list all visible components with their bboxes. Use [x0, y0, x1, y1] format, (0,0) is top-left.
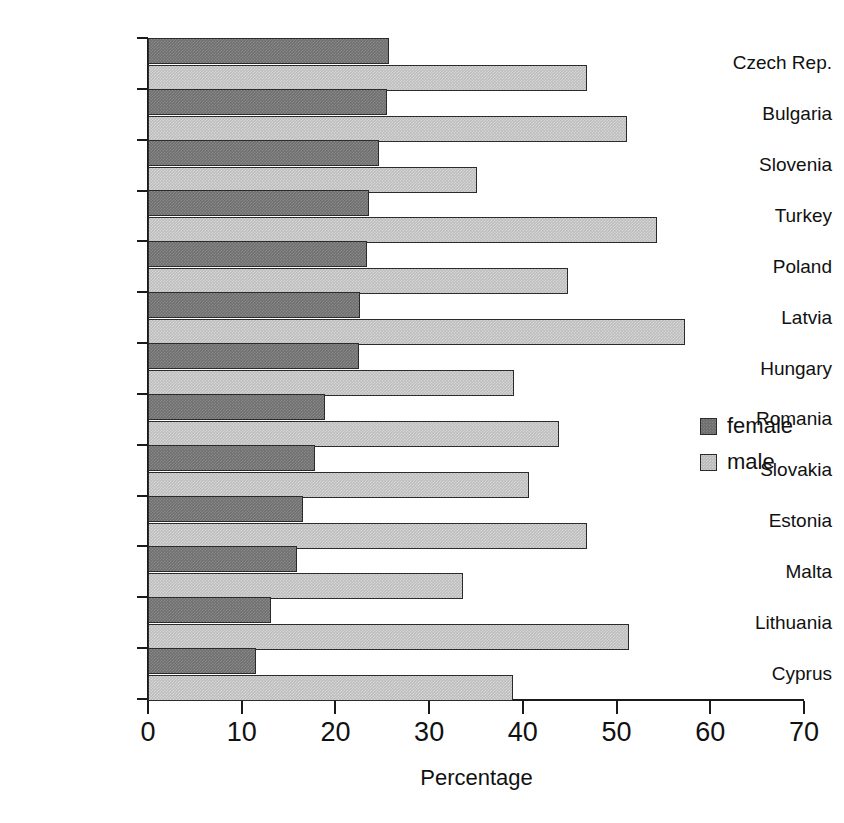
bar-female: [148, 241, 367, 267]
bar-female: [148, 343, 359, 369]
y-tick: [137, 596, 148, 598]
legend-label-female: female: [727, 415, 793, 437]
bar-female: [148, 89, 387, 115]
y-tick: [137, 545, 148, 547]
bar-female: [148, 190, 369, 216]
bar-male: [148, 116, 627, 142]
bar-male: [148, 523, 587, 549]
plot-area: 010203040506070 Czech Rep.BulgariaSloven…: [0, 0, 844, 823]
bar-female: [148, 38, 389, 64]
bar-male: [148, 421, 559, 447]
bar-female: [148, 140, 379, 166]
legend-label-male: male: [727, 451, 775, 473]
x-tick: [616, 701, 618, 714]
x-tick-label: 40: [493, 717, 553, 748]
bar-male: [148, 624, 629, 650]
x-tick-label: 70: [774, 717, 834, 748]
legend: female male: [700, 415, 793, 487]
x-tick: [803, 701, 805, 714]
y-tick: [137, 291, 148, 293]
category-label: Czech Rep.: [706, 53, 844, 72]
y-tick: [137, 393, 148, 395]
x-tick: [709, 701, 711, 714]
y-tick: [137, 139, 148, 141]
x-tick-label: 30: [399, 717, 459, 748]
bar-female: [148, 597, 271, 623]
bar-female: [148, 648, 256, 674]
category-label: Latvia: [706, 308, 844, 327]
x-tick-label: 0: [118, 717, 178, 748]
x-tick-label: 20: [305, 717, 365, 748]
y-tick: [137, 342, 148, 344]
bar-male: [148, 65, 587, 91]
bar-male: [148, 573, 463, 599]
x-tick-label: 10: [212, 717, 272, 748]
x-tick-label: 50: [587, 717, 647, 748]
bar-male: [148, 217, 657, 243]
category-label: Bulgaria: [706, 104, 844, 123]
category-label: Estonia: [706, 511, 844, 530]
y-tick: [137, 698, 148, 700]
y-tick: [137, 647, 148, 649]
x-axis-title: Percentage: [148, 765, 805, 791]
x-tick: [241, 701, 243, 714]
x-tick: [522, 701, 524, 714]
y-tick: [137, 88, 148, 90]
y-tick: [137, 240, 148, 242]
category-label: Malta: [706, 562, 844, 581]
bar-male: [148, 319, 685, 345]
x-tick-label: 60: [680, 717, 740, 748]
x-tick: [334, 701, 336, 714]
category-label: Poland: [706, 257, 844, 276]
bar-female: [148, 292, 360, 318]
legend-item-female: female: [700, 415, 793, 437]
bar-chart: 010203040506070 Czech Rep.BulgariaSloven…: [0, 0, 844, 823]
legend-swatch-male-icon: [700, 454, 717, 471]
category-label: Slovenia: [706, 155, 844, 174]
category-label: Hungary: [706, 359, 844, 378]
bar-male: [148, 370, 514, 396]
y-tick: [137, 495, 148, 497]
category-label: Lithuania: [706, 613, 844, 632]
bar-female: [148, 394, 325, 420]
x-tick: [147, 701, 149, 714]
bar-female: [148, 496, 303, 522]
bar-male: [148, 268, 568, 294]
category-label: Cyprus: [706, 664, 844, 683]
bar-female: [148, 546, 297, 572]
bar-male: [148, 167, 477, 193]
bar-female: [148, 445, 315, 471]
y-tick: [137, 444, 148, 446]
bar-male: [148, 675, 513, 701]
legend-swatch-female-icon: [700, 418, 717, 435]
y-tick: [137, 190, 148, 192]
x-tick: [428, 701, 430, 714]
y-tick: [137, 37, 148, 39]
bar-male: [148, 472, 529, 498]
category-label: Turkey: [706, 206, 844, 225]
legend-item-male: male: [700, 451, 793, 473]
